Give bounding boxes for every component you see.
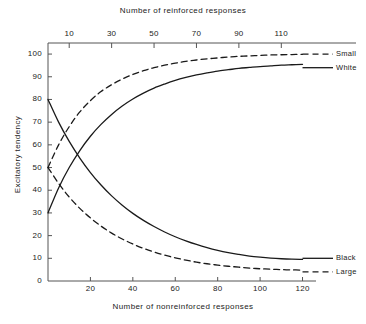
curve-label-white: White	[336, 63, 357, 72]
curve-large	[48, 168, 303, 271]
curve-label-large: Large	[336, 267, 357, 276]
data-curves	[48, 54, 333, 272]
top-axis-tick-label: 30	[92, 29, 132, 38]
top-axis-tick-label: 50	[134, 29, 174, 38]
y-axis-tick-label: 70	[14, 117, 42, 126]
top-axis-tick-label: 90	[219, 29, 259, 38]
tick-marks	[48, 43, 303, 281]
curve-black	[48, 99, 303, 259]
y-axis-tick-label: 80	[14, 94, 42, 103]
x-axis-tick-label: 60	[155, 284, 195, 293]
x-axis-tick-label: 20	[70, 284, 110, 293]
y-axis-tick-label: 40	[14, 185, 42, 194]
y-axis-tick-label: 50	[14, 163, 42, 172]
x-axis-tick-label: 120	[283, 284, 323, 293]
y-axis-tick-label: 0	[14, 276, 42, 285]
y-axis-tick-label: 30	[14, 208, 42, 217]
top-axis-tick-label: 70	[176, 29, 216, 38]
y-axis-tick-label: 20	[14, 231, 42, 240]
curve-small	[48, 54, 303, 167]
y-axis-tick-label: 10	[14, 253, 42, 262]
chart-container: Number of reinforced responses Number of…	[0, 0, 366, 324]
curve-label-small: Small	[336, 49, 356, 58]
y-axis-tick-label: 60	[14, 140, 42, 149]
y-axis-tick-label: 90	[14, 72, 42, 81]
top-axis-tick-label: 10	[49, 29, 89, 38]
axes-lines	[48, 43, 356, 281]
x-axis-tick-label: 80	[198, 284, 238, 293]
x-axis-tick-label: 40	[113, 284, 153, 293]
x-axis-tick-label: 100	[240, 284, 280, 293]
y-axis-tick-label: 100	[14, 49, 42, 58]
top-axis-tick-label: 110	[261, 29, 301, 38]
curve-white	[48, 64, 303, 213]
curve-label-black: Black	[336, 253, 356, 262]
plot-area	[0, 0, 366, 324]
